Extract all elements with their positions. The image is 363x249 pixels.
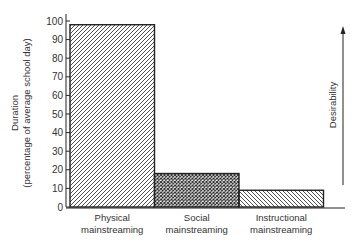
y-tick-label: 90 <box>52 34 64 45</box>
y-tick-label: 10 <box>52 183 64 194</box>
arrow-up-icon <box>341 26 346 34</box>
bars-group <box>70 25 324 207</box>
y-tick-label: 30 <box>52 146 64 157</box>
bar-1 <box>70 25 155 207</box>
x-axis-labels: PhysicalmainstreamingSocialmainstreaming… <box>81 212 312 235</box>
bar-3 <box>239 190 324 207</box>
bar-2 <box>155 174 240 207</box>
y-tick-label: 0 <box>57 202 63 213</box>
bar-chart: 0102030405060708090100 Physicalmainstrea… <box>0 0 363 249</box>
desirability-label: Desirability <box>327 82 338 129</box>
y-tick-label: 100 <box>46 16 63 27</box>
chart-canvas: 0102030405060708090100 Physicalmainstrea… <box>0 0 363 249</box>
x-category-label: Social <box>184 212 210 223</box>
y-tick-label: 40 <box>52 127 64 138</box>
x-category-label: Physical <box>95 212 130 223</box>
x-category-label: Instructional <box>256 212 307 223</box>
x-category-label: mainstreaming <box>166 224 228 235</box>
y-axis-subtitle: (percentage of average school day) <box>21 38 32 187</box>
desirability-arrow <box>341 26 346 185</box>
y-tick-label: 50 <box>52 109 64 120</box>
x-category-label: mainstreaming <box>250 224 312 235</box>
y-tick-label: 20 <box>52 164 64 175</box>
y-tick-label: 70 <box>52 71 64 82</box>
y-axis-title: Duration <box>9 95 20 131</box>
x-category-label: mainstreaming <box>81 224 143 235</box>
y-tick-label: 80 <box>52 53 64 64</box>
y-tick-label: 60 <box>52 90 64 101</box>
